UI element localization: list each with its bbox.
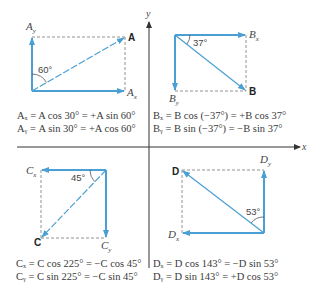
quadrant-c: 45° C Cx Cy (26, 164, 112, 254)
equation-cx: Cₓ = C cos 225° = −C cos 45° (16, 258, 141, 270)
label-by: By (169, 92, 180, 107)
angle-a: 60° (38, 64, 53, 75)
quadrant-a: 60° A Ay Ax (25, 20, 138, 101)
label-ay: Ay (25, 20, 37, 35)
vector-d (183, 171, 264, 233)
label-c: C (34, 237, 41, 248)
label-a: A (128, 32, 135, 43)
equation-ax: Aₓ = A cos 30° = +A sin 60° (17, 110, 135, 122)
y-axis-label: y (145, 8, 151, 19)
equation-by: Bᵧ = B sin (−37°) = −B sin 37° (153, 123, 282, 135)
equation-cy: Cᵧ = C sin 225° = −C sin 45° (16, 271, 138, 283)
angle-c: 45° (71, 172, 86, 183)
equation-dx: Dₓ = D cos 143° = −D sin 53° (153, 258, 278, 270)
label-ax: Ax (126, 86, 138, 101)
vector-diagram: y x 60° A Ay Ax 37° B Bx By 45° C (0, 0, 309, 291)
label-b: B (249, 86, 256, 97)
label-cy: Cy (101, 239, 112, 254)
label-d: D (172, 166, 179, 177)
angle-d: 53° (246, 206, 261, 217)
label-bx: Bx (249, 28, 260, 43)
x-axis-label: x (301, 141, 307, 152)
quadrant-d: 53° D Dy Dx (167, 153, 272, 243)
label-dy: Dy (259, 153, 272, 168)
equation-bx: Bₓ = B cos (−37°) = +B cos 37° (153, 110, 286, 122)
equation-ay: Aᵧ = A sin 30° = +A cos 60° (17, 123, 136, 135)
equation-dy: Dᵧ = D sin 143° = +D cos 53° (153, 271, 278, 283)
label-dx: Dx (167, 228, 180, 243)
vector-b (175, 35, 245, 90)
quadrant-b: 37° B Bx By (169, 28, 260, 107)
label-cx: Cx (26, 164, 37, 179)
angle-b: 37° (193, 37, 208, 48)
